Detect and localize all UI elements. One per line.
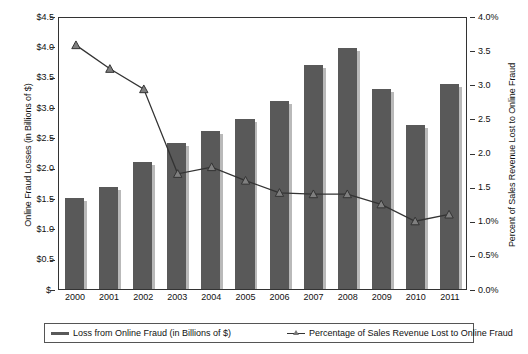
left-tick-mark-0 — [50, 290, 55, 291]
marker-2005 — [241, 176, 249, 184]
x-label-2004: 2004 — [194, 292, 228, 303]
marker-2002 — [140, 85, 148, 93]
right-tick-mark-0 — [470, 290, 475, 291]
left-axis-ticks: $-$0.5$1.0$1.5$2.0$2.5$3.0$3.5$4.0$4.5 — [14, 0, 54, 354]
legend-item-line-series: Percentage of Sales Revenue Lost to Onli… — [287, 327, 513, 339]
right-tick-mark-5 — [470, 119, 475, 120]
x-label-2003: 2003 — [160, 292, 194, 303]
x-label-2001: 2001 — [92, 292, 126, 303]
legend-item-line-label: Percentage of Sales Revenue Lost to Onli… — [309, 328, 513, 338]
x-label-2011: 2011 — [433, 292, 467, 303]
x-axis-labels: 2000200120022003200420052006200720082009… — [58, 292, 467, 308]
marker-2004 — [207, 163, 215, 171]
left-tick-mark-6 — [50, 108, 55, 109]
left-tick-mark-8 — [50, 47, 55, 48]
x-label-2010: 2010 — [399, 292, 433, 303]
right-tick-mark-4 — [470, 154, 475, 155]
right-tick-mark-2 — [470, 222, 475, 223]
x-label-2009: 2009 — [365, 292, 399, 303]
marker-2000 — [72, 41, 80, 49]
right-tick-label-6: 3.0 — [478, 81, 491, 90]
line-series-layer — [59, 18, 466, 289]
x-label-2008: 2008 — [331, 292, 365, 303]
right-tick-label-1: 0.5% — [478, 251, 499, 260]
x-label-2006: 2006 — [263, 292, 297, 303]
right-tick-mark-1 — [470, 256, 475, 257]
left-tick-mark-9 — [50, 17, 55, 18]
x-label-2000: 2000 — [58, 292, 92, 303]
marker-2001 — [106, 65, 114, 73]
percentage-markers — [72, 41, 453, 225]
left-tick-mark-7 — [50, 78, 55, 79]
right-tick-mark-8 — [470, 17, 475, 18]
left-tick-mark-2 — [50, 229, 55, 230]
bar-series-swatch-icon — [51, 327, 69, 339]
right-tick-label-2: 1.0% — [478, 217, 499, 226]
right-tick-label-8: 4.0% — [478, 13, 499, 22]
legend-item-bar-label: Loss from Online Fraud (in Billions of $… — [73, 328, 231, 338]
right-tick-label-7: 3.5 — [478, 47, 491, 56]
right-axis-ticks: 0.0%0.5%1.0%1.52.02.53.03.54.0% — [470, 0, 526, 354]
plot-area — [58, 17, 467, 290]
x-label-2005: 2005 — [228, 292, 262, 303]
percentage-line — [76, 45, 449, 221]
x-label-2007: 2007 — [297, 292, 331, 303]
right-tick-label-4: 2.0 — [478, 149, 491, 158]
left-tick-mark-5 — [50, 138, 55, 139]
x-label-2002: 2002 — [126, 292, 160, 303]
left-tick-mark-1 — [50, 260, 55, 261]
chart-legend: Loss from Online Fraud (in Billions of $… — [44, 323, 474, 343]
legend-item-bar-series: Loss from Online Fraud (in Billions of $… — [51, 327, 231, 339]
fraud-losses-chart: Online Fraud Losses (in Billions of $) P… — [0, 0, 528, 354]
right-tick-mark-6 — [470, 85, 475, 86]
right-tick-label-5: 2.5 — [478, 115, 491, 124]
right-tick-mark-7 — [470, 51, 475, 52]
line-series-swatch-icon — [287, 327, 305, 339]
left-tick-mark-4 — [50, 169, 55, 170]
right-tick-mark-3 — [470, 188, 475, 189]
marker-2011 — [445, 210, 453, 218]
left-tick-mark-3 — [50, 199, 55, 200]
right-tick-label-3: 1.5 — [478, 183, 491, 192]
right-tick-label-0: 0.0% — [478, 286, 499, 295]
